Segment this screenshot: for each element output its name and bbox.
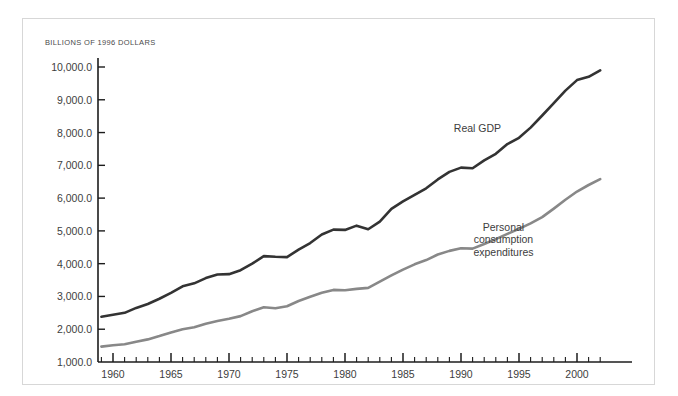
- chart-figure: BILLIONS OF 1996 DOLLARS 10,000.09,000.0…: [0, 0, 678, 396]
- y-axis-ticks: [98, 67, 105, 329]
- pce-label-line-2: consumption: [473, 233, 533, 246]
- series-label-real-gdp: Real GDP: [454, 122, 501, 135]
- data-series-lines: [101, 70, 600, 346]
- plot-area: [0, 0, 678, 396]
- series-line-real-gdp: [101, 70, 600, 316]
- series-label-personal-consumption-expenditures: Personal consumption expenditures: [473, 221, 533, 259]
- pce-label-line-3: expenditures: [473, 246, 533, 259]
- pce-label-line-1: Personal: [473, 221, 533, 234]
- series-line-personal-consumption-expenditures: [101, 179, 600, 346]
- x-axis-ticks: [101, 353, 600, 362]
